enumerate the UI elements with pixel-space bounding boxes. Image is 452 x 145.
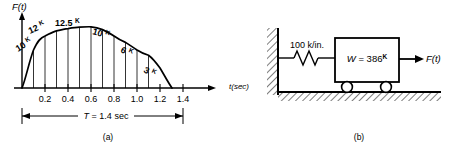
- svg-text:1.2: 1.2: [154, 94, 167, 104]
- curve-label-superscript: K: [38, 18, 45, 26]
- svg-text:0.6: 0.6: [85, 94, 98, 104]
- curve-label-superscript: K: [151, 67, 159, 75]
- svg-text:1.4: 1.4: [177, 94, 190, 104]
- panel-a-caption: (a): [103, 132, 114, 142]
- force-label: F(t): [426, 53, 441, 64]
- force-time-chart-svg: 10 K 12 K 12.5 K 10 K 6 K 3 K: [0, 0, 226, 145]
- wheels: [342, 82, 392, 93]
- curve-label-2: 12.5: [55, 18, 73, 28]
- x-axis-tick-labels: 0.2 0.4 0.6 0.8 1.0 1.2 1.4: [39, 94, 190, 104]
- x-tick-label-1: 0.4: [62, 94, 75, 104]
- force-arrow: [399, 55, 424, 63]
- spring: [278, 51, 335, 65]
- spring-stiffness-label: 100 k/in.: [290, 40, 324, 50]
- x-tick-label-3: 0.8: [108, 94, 121, 104]
- figure-root: 10 K 12 K 12.5 K 10 K 6 K 3 K: [0, 0, 452, 145]
- mass-weight-label: W = 386K: [347, 53, 388, 65]
- curve-label-3: 10: [91, 26, 103, 38]
- svg-text:6 K: 6 K: [119, 43, 135, 59]
- svg-text:10 K: 10 K: [91, 25, 111, 41]
- svg-text:10 K: 10 K: [13, 35, 34, 54]
- svg-text:0.8: 0.8: [108, 94, 121, 104]
- svg-text:12.5 K: 12.5 K: [55, 17, 80, 29]
- svg-text:0.2: 0.2: [39, 94, 52, 104]
- x-tick-label-6: 1.4: [177, 94, 190, 104]
- ordinate-station-lines: [34, 27, 149, 88]
- x-axis-label-text: t(sec): [229, 82, 249, 91]
- curve-label-4: 6: [119, 45, 128, 56]
- svg-text:T = 1.4 sec: T = 1.4 sec: [84, 111, 129, 121]
- duration-span-marker: T = 1.4 sec: [22, 108, 183, 124]
- svg-text:1.0: 1.0: [131, 94, 144, 104]
- panel-b-spring-mass-diagram: 100 k/in. W = 386K F(t): [226, 0, 452, 145]
- mass-weight-superscript: K: [382, 53, 387, 60]
- curve-label-superscript: K: [128, 46, 135, 54]
- x-tick-label-2: 0.6: [85, 94, 98, 104]
- svg-text:12 K: 12 K: [26, 18, 47, 36]
- svg-text:3 K: 3 K: [142, 63, 158, 79]
- wheel-left: [342, 82, 353, 93]
- y-axis-label: F(t): [12, 1, 27, 12]
- x-tick-label-0: 0.2: [39, 94, 52, 104]
- x-tick-label-4: 1.0: [131, 94, 144, 104]
- curve-label-superscript: K: [105, 28, 112, 36]
- curve-label-1: 12: [27, 23, 40, 36]
- x-axis-label: t(sec): [229, 82, 249, 91]
- panel-b-caption: (b): [354, 132, 365, 142]
- panel-a-force-time-plot: 10 K 12 K 12.5 K 10 K 6 K 3 K: [0, 0, 226, 145]
- curve-label-superscript: K: [75, 17, 80, 24]
- spring-mass-svg: 100 k/in. W = 386K F(t): [226, 0, 452, 145]
- support-wall: [267, 28, 278, 95]
- wheel-right: [381, 82, 392, 93]
- x-axis: [14, 85, 216, 91]
- ground-surface: [278, 92, 441, 101]
- curve-label-5: 3: [142, 65, 151, 76]
- x-tick-label-5: 1.2: [154, 94, 167, 104]
- svg-text:0.4: 0.4: [62, 94, 75, 104]
- duration-label-value: = 1.4 sec: [89, 111, 129, 121]
